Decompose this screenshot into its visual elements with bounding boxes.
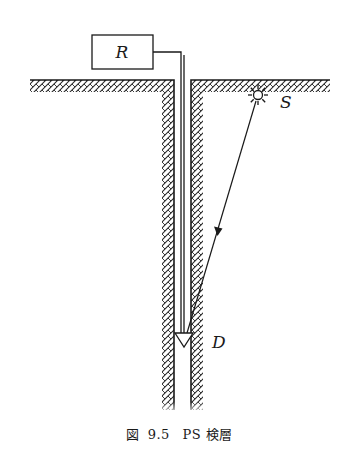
caption-number: 9.5	[148, 427, 170, 442]
ground-surface-left	[30, 80, 174, 410]
detector-label: D	[211, 332, 226, 352]
caption-prefix: 図	[126, 427, 140, 442]
ground-surface-right	[191, 80, 330, 410]
receiver-label: R	[115, 42, 129, 62]
source-icon	[248, 85, 268, 105]
caption-title: PS 検層	[183, 427, 233, 442]
source-label: S	[280, 92, 292, 112]
borehole-fade	[155, 340, 210, 415]
arrow-icon	[214, 227, 223, 237]
ps-logging-diagram: R S D	[0, 0, 359, 453]
figure-caption: 図9.5 PS 検層	[0, 424, 359, 443]
receiver-box: R	[92, 35, 153, 69]
